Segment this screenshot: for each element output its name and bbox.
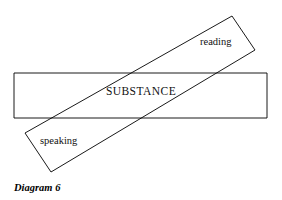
figure-caption: Diagram 6 — [14, 182, 60, 193]
speaking-label: speaking — [40, 136, 77, 147]
reading-label: reading — [200, 37, 232, 48]
substance-label: SUBSTANCE — [0, 86, 282, 98]
diagram-figure: SUBSTANCE reading speaking Diagram 6 — [0, 0, 282, 200]
diagram-canvas — [0, 0, 282, 200]
